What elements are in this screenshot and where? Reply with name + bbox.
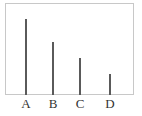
bar-b [52,42,54,95]
x-tick-label: C [72,97,88,110]
bar-c [79,58,81,95]
bar-a [25,19,27,95]
x-tick-label: B [45,97,61,110]
x-tick-label: D [102,97,118,110]
x-tick-label: A [18,97,34,110]
bar-d [109,74,111,95]
